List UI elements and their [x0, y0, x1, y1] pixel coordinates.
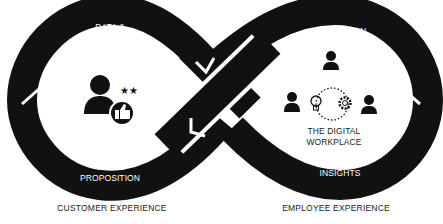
person-icon: [361, 95, 377, 114]
digital-workplace-icons: [284, 51, 377, 120]
person-icon: [284, 92, 300, 112]
label-the-digital-line: THE DIGITAL: [306, 126, 361, 137]
label-value-proposition: VALUE PROPOSITION: [80, 162, 140, 184]
label-innovation: INNOVATION: [314, 26, 367, 37]
label-value-line: VALUE: [80, 162, 140, 173]
infinity-diagram: ★★: [0, 0, 443, 224]
label-workplace-line: WORKPLACE: [306, 137, 361, 148]
svg-text:★★: ★★: [120, 85, 138, 96]
person-icon: [323, 51, 339, 70]
label-data-line: DATA &: [87, 22, 134, 33]
label-proposition-line: PROPOSITION: [80, 173, 140, 184]
gear-icon: [340, 98, 351, 109]
customer-rating-icon: ★★: [84, 75, 138, 125]
label-feedback-line: FEEDBACK: [87, 33, 134, 44]
caption-customer-experience: CUSTOMER EXPERIENCE: [57, 203, 166, 213]
label-digital-workplace: THE DIGITAL WORKPLACE: [306, 126, 361, 148]
label-insights: INSIGHTS: [320, 168, 361, 179]
caption-employee-experience: EMPLOYEE EXPERIENCE: [282, 203, 390, 213]
label-data-feedback: DATA & FEEDBACK: [87, 22, 134, 44]
